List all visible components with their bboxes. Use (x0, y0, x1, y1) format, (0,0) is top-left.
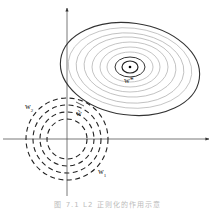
tangent-arrow (76, 102, 84, 106)
optimum-point (129, 66, 132, 69)
loss-contour-outer (54, 14, 205, 125)
label-w1-sub: 1 (104, 173, 107, 178)
figure-caption: 图 7.1 L2 正则化的作用示意 (0, 199, 215, 209)
label-w2: w2 (25, 103, 33, 113)
label-w-tilde: w̃ (76, 110, 82, 118)
label-w2-sub: 2 (31, 108, 34, 113)
label-w1: w1 (98, 168, 106, 178)
label-w-star: w* (124, 77, 134, 85)
loss-contours (54, 14, 205, 125)
